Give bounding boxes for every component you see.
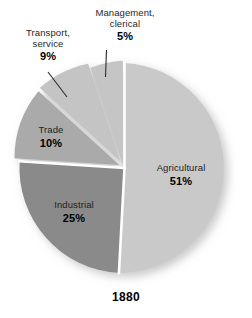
slice-label-transport-service-line2: service: [2, 39, 94, 50]
slice-label-agricultural-text: Agricultural: [132, 163, 230, 174]
pie-chart-figure: Management, clerical 5% Transport, servi…: [0, 0, 252, 318]
slice-label-industrial: Industrial 25%: [28, 200, 120, 224]
slice-label-trade-text: Trade: [20, 125, 82, 136]
slice-value-agricultural: 51%: [132, 175, 230, 187]
slice-value-industrial: 25%: [28, 212, 120, 224]
slice-label-transport-service: Transport, service 9%: [2, 28, 94, 63]
slice-label-industrial-text: Industrial: [28, 200, 120, 211]
slice-value-trade: 10%: [20, 137, 82, 149]
slice-value-transport-service: 9%: [2, 50, 94, 62]
chart-year-caption: 1880: [0, 290, 252, 304]
slice-label-trade: Trade 10%: [20, 125, 82, 149]
slice-label-agricultural: Agricultural 51%: [132, 163, 230, 187]
